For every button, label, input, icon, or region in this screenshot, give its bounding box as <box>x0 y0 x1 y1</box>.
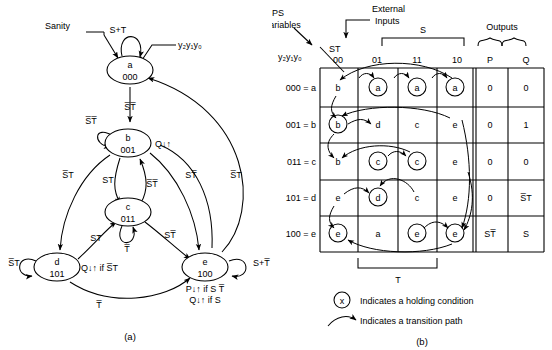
cell-b-q: 1 <box>523 120 528 130</box>
state-vars-header: y₂y₁y₀ <box>278 52 302 62</box>
edge-c-e <box>145 222 190 259</box>
cell-e-10: e <box>452 229 457 239</box>
state-table-svg: S Outputs PS Variables External Inputs S… <box>272 0 552 350</box>
holding-circles <box>329 78 464 242</box>
bracket-s <box>382 38 464 46</box>
label-self-loop-e: S+T̅ <box>253 258 270 268</box>
legend: x Indicates a holding condition Indicate… <box>328 292 474 326</box>
cell-d-00: e <box>335 193 340 203</box>
col-header-q: Q <box>522 55 529 65</box>
cell-c-01: c <box>376 157 381 167</box>
edge-sanity <box>104 35 118 58</box>
state-node-a-code: 000 <box>122 72 137 82</box>
bracket-t-label: T <box>395 275 401 285</box>
edge-c-b <box>140 159 146 203</box>
legend-transition-text: Indicates a transition path <box>360 316 463 326</box>
col-header-p: P <box>487 55 493 65</box>
figure-root: a 000 b 001 c 011 d 101 e 100 Sanity S+T… <box>0 0 552 350</box>
state-table-panel: S Outputs PS Variables External Inputs S… <box>272 0 552 350</box>
cell-c-11: c <box>415 157 420 167</box>
ps-variables-line2: Variables <box>272 20 301 30</box>
cell-a-p: 0 <box>487 83 492 93</box>
cell-e-01: a <box>375 229 380 239</box>
label-output-e-2: Q↓↑ if S <box>189 295 221 305</box>
cell-d-10: e <box>452 193 457 203</box>
row-label-c: 011 = c <box>287 157 317 167</box>
bracket-t <box>358 258 437 268</box>
caption-b: (b) <box>416 336 428 347</box>
ps-variables-line1: PS <box>272 8 284 18</box>
cell-d-01: d <box>375 193 380 203</box>
cell-d-q: S̅T <box>520 193 532 203</box>
self-loop-e <box>229 259 246 276</box>
edge-b-c <box>115 158 120 203</box>
external-inputs-line1: External <box>372 4 405 14</box>
table-grid <box>320 68 544 252</box>
transition-paths <box>328 63 472 252</box>
legend-holding-text: Indicates a holding condition <box>360 296 474 306</box>
cell-d-11: c <box>415 193 420 203</box>
cell-e-q: S <box>523 229 529 239</box>
row-label-b: 001 = b <box>286 120 316 130</box>
caption-a: (a) <box>124 331 136 342</box>
legend-holding-symbol: x <box>340 296 345 306</box>
col-header-01: 01 <box>372 55 382 65</box>
leader-ps-variables <box>294 28 312 45</box>
legend-transition-icon <box>328 317 356 326</box>
state-node-b-name: b <box>125 133 130 143</box>
label-edge-b-c: ST <box>102 175 114 185</box>
state-diagram-svg: a 000 b 001 c 011 d 101 e 100 Sanity S+T… <box>0 0 285 350</box>
self-loop-a <box>121 37 141 57</box>
label-self-loop-d: S̅T <box>8 258 20 268</box>
label-output-b: Q↓↑ <box>155 139 171 149</box>
cell-b-00: b <box>335 120 340 130</box>
label-edge-d-e: T̅ <box>96 300 102 310</box>
cell-c-10: e <box>452 157 457 167</box>
state-node-b-code: 001 <box>120 145 135 155</box>
state-node-c-code: 011 <box>121 214 135 224</box>
label-edge-c-b: S̅T̅ <box>146 179 158 189</box>
label-sanity: Sanity <box>45 21 71 31</box>
label-self-loop-b: S̅T̅ <box>85 116 97 126</box>
label-edge-b-d: S̅T <box>62 170 74 180</box>
cell-a-q: 0 <box>523 83 528 93</box>
cell-e-00: e <box>335 229 340 239</box>
state-node-e-name: e <box>202 257 207 267</box>
leader-sanity <box>86 32 104 35</box>
cell-c-q: 0 <box>523 157 528 167</box>
label-edge-d-c: ST <box>90 233 102 243</box>
self-loop-c <box>120 226 134 243</box>
label-state-vars: y₂y₁y₀ <box>178 40 202 50</box>
label-output-e-1: P↓↑ if S T̅ <box>186 284 225 294</box>
edge-d-e <box>70 278 190 298</box>
row-label-a: 000 = a <box>286 83 316 93</box>
cell-a-10: a <box>452 83 457 93</box>
state-node-d-name: d <box>54 257 59 267</box>
label-edge-c-e: ST̅ <box>164 230 176 240</box>
col-header-11: 11 <box>412 55 421 65</box>
external-inputs-line2: Inputs <box>375 16 400 26</box>
row-label-d: 101 = d <box>286 193 316 203</box>
label-output-d: Q↓↑ if S̅T <box>81 263 119 273</box>
label-edge-b-e: ST̅ <box>185 170 197 180</box>
cell-a-00: b <box>335 83 340 93</box>
cell-b-10: e <box>452 120 457 130</box>
leader-external-inputs <box>346 20 370 38</box>
cell-b-01: d <box>375 120 380 130</box>
cell-b-11: c <box>415 120 420 130</box>
state-node-e-code: 100 <box>197 269 212 279</box>
cell-c-00: b <box>335 157 340 167</box>
cell-c-p: 0 <box>487 157 492 167</box>
outputs-label: Outputs <box>486 22 518 32</box>
label-edge-e-a: S̅T <box>230 170 242 180</box>
cell-d-p: 0 <box>487 193 492 203</box>
cell-a-11: a <box>414 83 419 93</box>
cell-e-11: e <box>414 229 419 239</box>
edge-b-a-helper <box>146 82 222 250</box>
cell-b-p: 0 <box>487 120 492 130</box>
col-header-00: 00 <box>333 55 343 65</box>
state-diagram-panel: a 000 b 001 c 011 d 101 e 100 Sanity S+T… <box>0 0 285 350</box>
cell-e-p: ST̅ <box>484 229 496 239</box>
label-self-loop-c: T̅ <box>124 244 130 254</box>
outputs-brace <box>478 38 526 46</box>
